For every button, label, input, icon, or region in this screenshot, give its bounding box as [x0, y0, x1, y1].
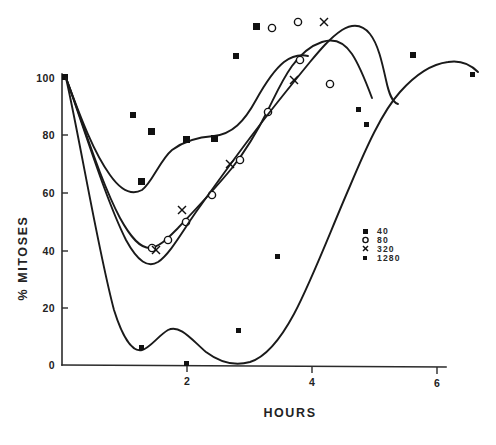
data-point	[410, 52, 416, 58]
y-tick-label-100: 100	[36, 72, 55, 84]
series-1280-line	[66, 61, 478, 363]
series-40	[62, 23, 308, 192]
data-point	[296, 56, 303, 63]
data-point	[164, 236, 171, 243]
y-tick-label-60: 60	[43, 187, 55, 199]
data-point	[139, 345, 144, 350]
data-point	[184, 361, 189, 366]
chart-svg: 100 80 60 40 20 0 2 4 6 % MITOSES HOURS	[0, 0, 496, 445]
data-point	[268, 24, 275, 31]
data-point	[183, 136, 190, 143]
legend-marker-filled-square	[363, 229, 368, 234]
series-80-line	[66, 41, 372, 249]
figure-container: 100 80 60 40 20 0 2 4 6 % MITOSES HOURS	[0, 0, 496, 445]
data-point	[364, 122, 369, 127]
data-point	[470, 72, 475, 77]
data-point	[130, 112, 136, 118]
series-320	[66, 18, 398, 264]
legend: 40 80 320 1280	[363, 226, 401, 263]
y-tick-label-0: 0	[49, 359, 55, 371]
series-40-line	[66, 55, 308, 192]
legend-marker-cross-x	[363, 246, 368, 251]
y-tick-labels: 100 80 60 40 20 0	[36, 72, 55, 371]
y-tick-label-80: 80	[43, 129, 55, 141]
data-point	[294, 18, 301, 25]
data-point	[211, 135, 218, 142]
series-1280	[66, 52, 478, 366]
x-tick-label-6: 6	[434, 377, 440, 389]
y-axis-title: % MITOSES	[16, 215, 30, 300]
data-point	[326, 80, 333, 87]
data-point	[178, 206, 186, 214]
data-point	[275, 254, 280, 259]
legend-marker-filled-square-small	[363, 256, 367, 260]
x-tick-label-2: 2	[184, 375, 190, 387]
data-point	[356, 107, 361, 112]
x-tick-label-4: 4	[309, 376, 315, 388]
data-point	[320, 18, 328, 26]
data-point	[236, 156, 243, 163]
x-tick-labels: 2 4 6	[184, 375, 440, 389]
legend-marker-open-circle	[363, 237, 368, 242]
data-point	[148, 128, 155, 135]
legend-label-1280: 1280	[377, 253, 401, 263]
x-axis-line	[62, 365, 446, 367]
x-axis-title: HOURS	[263, 406, 316, 420]
data-point	[138, 178, 145, 185]
data-point	[233, 53, 239, 59]
data-point	[226, 160, 234, 168]
data-point	[253, 23, 260, 30]
series-320-line	[66, 26, 398, 264]
data-point	[236, 328, 241, 333]
y-tick-label-40: 40	[43, 245, 55, 257]
y-tick-label-20: 20	[43, 302, 55, 314]
